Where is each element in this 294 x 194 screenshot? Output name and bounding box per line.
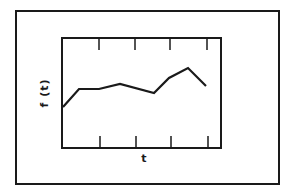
data-line-f-t bbox=[63, 68, 206, 107]
top-ticks bbox=[99, 38, 207, 50]
x-axis-label: t bbox=[141, 152, 146, 165]
y-axis-label: f (t) bbox=[38, 79, 51, 108]
bottom-ticks bbox=[100, 136, 208, 148]
plot-area-border bbox=[62, 38, 221, 148]
